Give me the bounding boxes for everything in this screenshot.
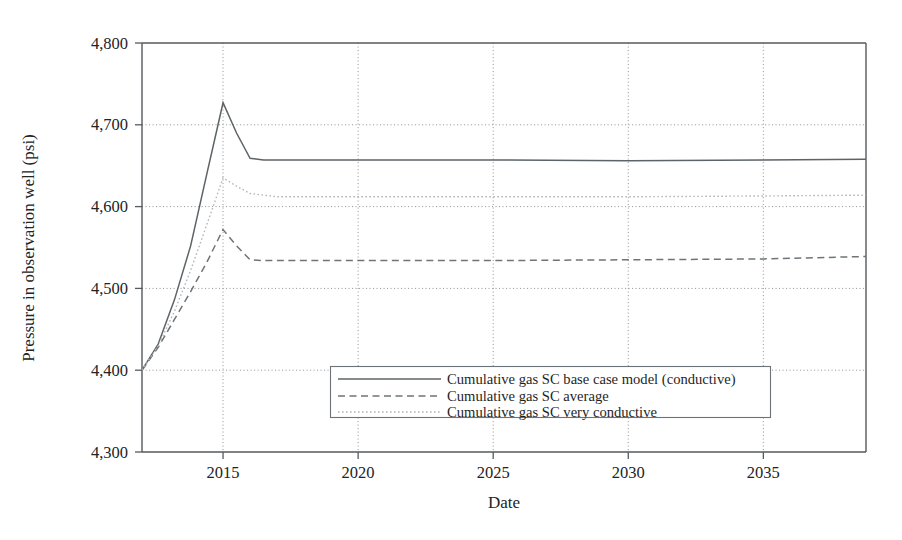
- x-tick-label: 2035: [747, 463, 780, 482]
- x-axis-tick-labels: 20152020202520302035: [207, 463, 780, 482]
- y-tick-label: 4,300: [91, 443, 128, 462]
- legend-label: Cumulative gas SC very conductive: [447, 404, 657, 420]
- x-axis-title: Date: [488, 493, 520, 512]
- y-tick-label: 4,600: [91, 197, 128, 216]
- series-line-dashed: [142, 230, 866, 371]
- x-axis-ticks: [223, 452, 763, 459]
- line-chart: 4,3004,4004,5004,6004,7004,800 201520202…: [0, 0, 902, 540]
- legend-label: Cumulative gas SC base case model (condu…: [447, 371, 736, 388]
- chart-legend: Cumulative gas SC base case model (condu…: [331, 367, 771, 421]
- x-tick-label: 2020: [342, 463, 375, 482]
- y-axis-tick-labels: 4,3004,4004,5004,6004,7004,800: [91, 34, 128, 462]
- series-line-solid: [142, 103, 866, 370]
- y-tick-label: 4,400: [91, 361, 128, 380]
- data-series-group: [142, 103, 866, 370]
- x-tick-label: 2030: [612, 463, 645, 482]
- y-tick-label: 4,700: [91, 115, 128, 134]
- legend-label: Cumulative gas SC average: [447, 388, 609, 404]
- x-tick-label: 2025: [477, 463, 510, 482]
- y-tick-label: 4,800: [91, 34, 128, 53]
- chart-figure: 4,3004,4004,5004,6004,7004,800 201520202…: [0, 0, 902, 540]
- y-axis-title: Pressure in observation well (psi): [19, 134, 38, 362]
- y-axis-ticks: [135, 43, 142, 452]
- x-tick-label: 2015: [207, 463, 240, 482]
- y-tick-label: 4,500: [91, 279, 128, 298]
